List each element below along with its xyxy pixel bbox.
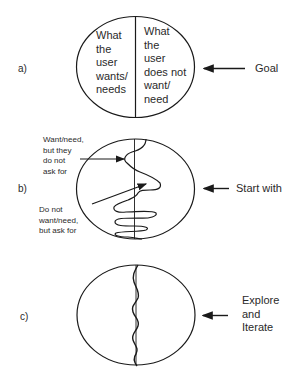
irregular-boundary-b: [114, 139, 161, 239]
label-line: Iterate: [242, 321, 279, 335]
panel-letter-a: a): [18, 62, 27, 76]
region-wants-needs: What the user wants/ needs: [96, 29, 128, 97]
region-does-not-want: What the user does not want/ need: [144, 25, 186, 106]
goal-label: Goal: [255, 62, 278, 76]
annotation-line: Want/need,: [43, 135, 84, 146]
annotation-want-not-asked: Want/need, but they do not ask for: [43, 135, 84, 177]
panel-letter-c: c): [20, 310, 28, 324]
region-line: needs: [96, 83, 128, 97]
annotation-line: do not: [43, 156, 84, 167]
label-line: and: [242, 308, 279, 322]
explore-iterate-label: Explore and Iterate: [242, 294, 279, 335]
wavy-boundary-c: [132, 265, 138, 366]
region-line: want/: [144, 79, 186, 93]
annotation-not-want-asked: Do not want/need, but ask for: [39, 205, 78, 237]
annotation-line: but they: [43, 146, 84, 157]
ellipse-b: [77, 139, 195, 239]
region-line: What: [96, 29, 128, 43]
region-line: the: [144, 39, 186, 53]
annotation-line: ask for: [43, 167, 84, 178]
region-line: user: [144, 52, 186, 66]
annotation-line: want/need,: [39, 216, 78, 227]
annotation-line: but ask for: [39, 226, 78, 237]
region-line: user: [96, 56, 128, 70]
annotation-line: Do not: [39, 205, 78, 216]
label-line: Explore: [242, 294, 279, 308]
start-with-label: Start with: [236, 182, 282, 196]
region-line: the: [96, 43, 128, 57]
region-line: does not: [144, 66, 186, 80]
panel-b-diagram: [77, 139, 230, 239]
region-line: need: [144, 93, 186, 107]
region-line: What: [144, 25, 186, 39]
panel-c-diagram: [77, 265, 228, 366]
region-line: wants/: [96, 70, 128, 84]
panel-letter-b: b): [18, 182, 27, 196]
